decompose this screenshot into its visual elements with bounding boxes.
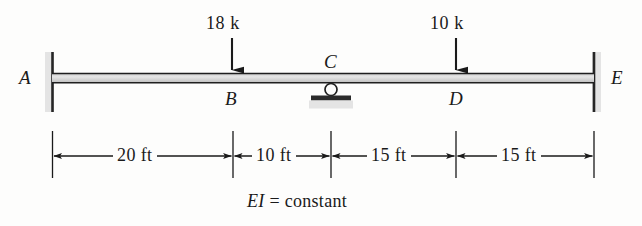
load-label-d: 10 k [430, 14, 464, 32]
node-label-d: D [449, 89, 463, 108]
ei-symbol: EI [247, 191, 265, 211]
dimension-label-cd: 15 ft [367, 146, 411, 164]
node-label-a: A [19, 68, 31, 87]
node-label-c: C [324, 52, 337, 71]
node-label-b: B [225, 89, 237, 108]
ei-value: constant [285, 191, 347, 211]
beam-member [52, 73, 594, 83]
node-label-e: E [611, 68, 623, 87]
load-label-b: 18 k [206, 14, 240, 32]
ei-equals: = [265, 191, 285, 211]
dimension-label-bc: 10 ft [252, 146, 296, 164]
roller-support-c [309, 84, 353, 109]
dimension-label-de: 15 ft [497, 146, 541, 164]
ei-constant-caption: EI = constant [247, 192, 347, 210]
dimension-label-ab: 20 ft [113, 146, 157, 164]
beam-diagram: A B C D E 18 k 10 k 20 ft 10 ft 15 ft 15… [0, 0, 642, 226]
